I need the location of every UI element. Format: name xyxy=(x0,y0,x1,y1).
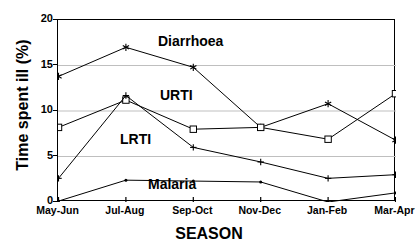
y-tick-label: 5 xyxy=(13,150,53,161)
series-malaria xyxy=(58,179,396,202)
x-tick-label: Mar-Apr xyxy=(355,205,418,216)
marker-open-square xyxy=(258,124,264,130)
marker-open-square xyxy=(190,126,196,132)
plot-area xyxy=(57,19,395,201)
series-label-diarrhoea: Diarrhoea xyxy=(158,33,223,49)
series-line xyxy=(59,180,396,202)
marker-dot xyxy=(259,180,262,183)
marker-dot xyxy=(124,179,127,182)
marker-open-square xyxy=(325,136,331,142)
marker-dot xyxy=(394,191,396,194)
y-tick-mark xyxy=(53,110,58,111)
series-label-malaria: Malaria xyxy=(148,176,196,192)
y-tick-label: 15 xyxy=(13,59,53,70)
series-label-lrti: LRTI xyxy=(120,131,151,147)
y-tick-label: 20 xyxy=(13,13,53,24)
x-axis-title: SEASON xyxy=(0,225,418,243)
y-tick-mark xyxy=(53,155,58,156)
y-tick-mark xyxy=(53,201,58,202)
chart-figure: Time spent ill (%) 05101520 May-JunJul-A… xyxy=(0,0,418,249)
plot-svg xyxy=(58,20,396,202)
series-line xyxy=(59,96,396,179)
y-tick-mark xyxy=(53,64,58,65)
marker-dot xyxy=(58,200,60,202)
marker-open-square xyxy=(58,124,62,130)
marker-open-square xyxy=(392,91,396,97)
y-tick-mark xyxy=(53,19,58,20)
series-lrti xyxy=(58,92,396,181)
marker-dot xyxy=(327,201,330,203)
series-line xyxy=(59,47,396,140)
series-label-urti: URTI xyxy=(160,87,193,103)
y-tick-label: 10 xyxy=(13,104,53,115)
